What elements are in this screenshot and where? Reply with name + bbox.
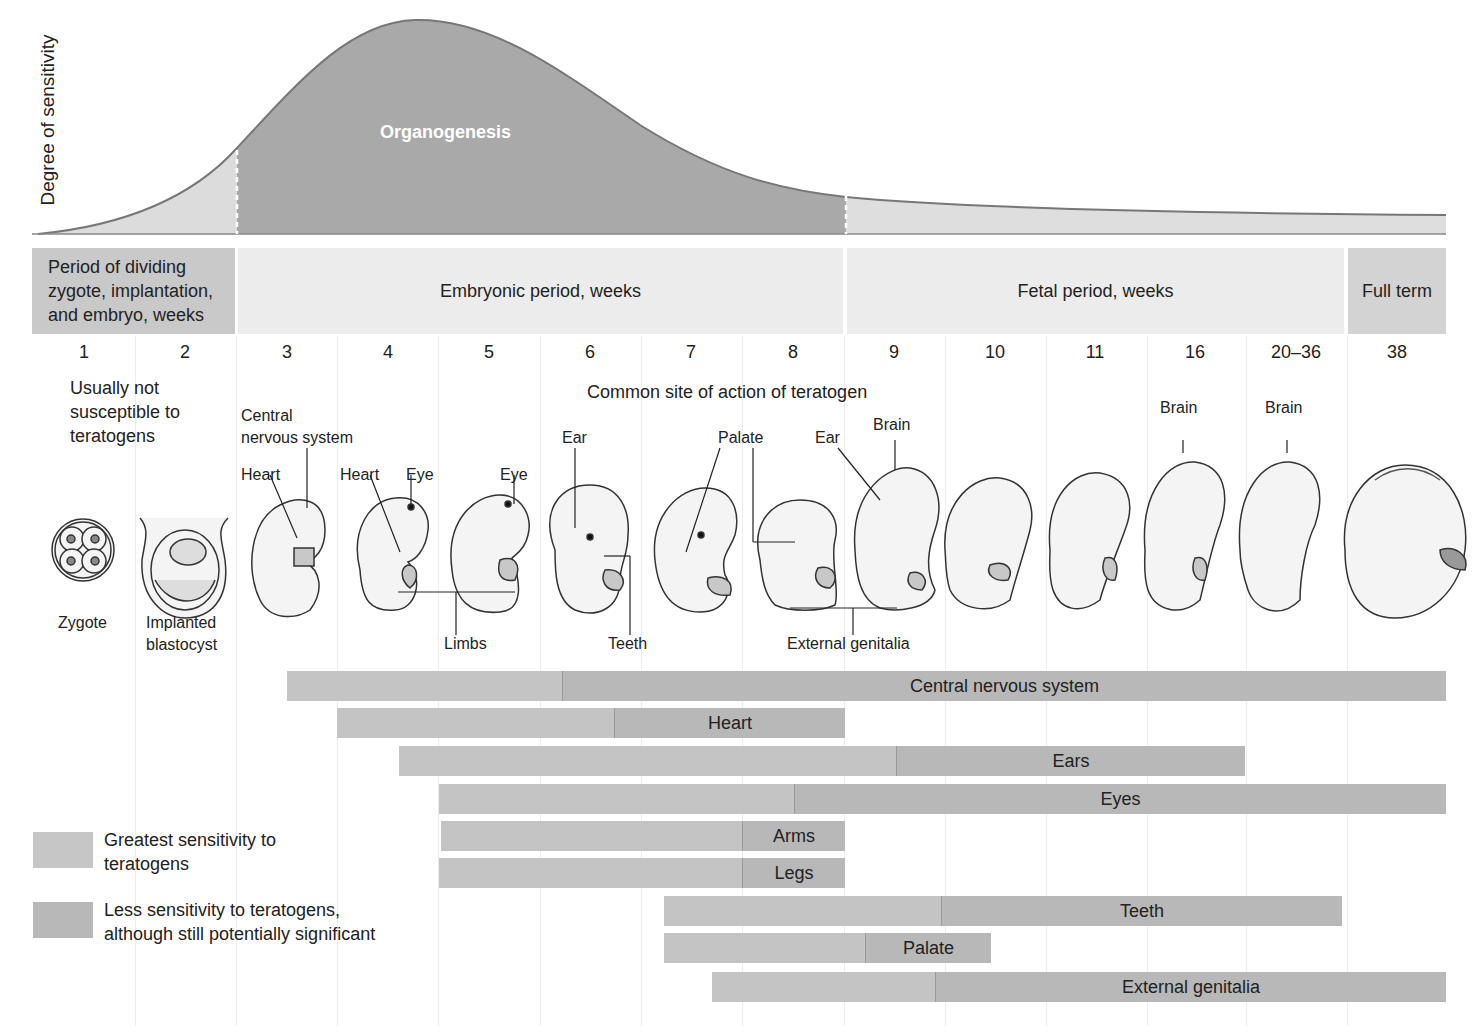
period-line: zygote, implantation, [48, 279, 213, 303]
embryo-week5-icon [451, 495, 529, 612]
legend-label-greatest: Greatest sensitivity to teratogens [104, 828, 276, 876]
blastocyst-line: Implanted [146, 612, 217, 634]
week-label: 38 [1367, 342, 1427, 363]
period-embryonic: Embryonic period, weeks [238, 248, 843, 334]
bar-legs: Legs [439, 858, 845, 888]
note-line: Usually not [70, 376, 180, 400]
zygote-label: Zygote [58, 612, 107, 634]
annotation-brain: Brain [1160, 397, 1197, 419]
week-label: 10 [965, 342, 1025, 363]
embryo-week11-icon [1049, 473, 1129, 609]
fetus-week20-36-icon [1239, 462, 1319, 611]
annotation-brain: Brain [873, 414, 910, 436]
annotation-brain: Brain [1265, 397, 1302, 419]
period-preembryonic: Period of dividing zygote, implantation,… [32, 248, 235, 334]
embryo-illustrations [0, 440, 1478, 640]
annotation-heart: Heart [241, 464, 280, 486]
bar-greatest-segment [287, 671, 562, 701]
annotation-ear: Ear [815, 427, 840, 449]
annotation-cns: Central [241, 405, 293, 427]
week-label: 1 [54, 342, 114, 363]
bar-greatest-segment [664, 896, 941, 926]
bar-greatest-segment [399, 746, 896, 776]
bar-less-segment: External genitalia [935, 972, 1446, 1002]
week-label: 9 [864, 342, 924, 363]
blastocyst-label: Implanted blastocyst [146, 612, 217, 656]
annotation-ear: Ear [562, 427, 587, 449]
legend-line: Less sensitivity to teratogens, [104, 898, 375, 922]
bar-greatest-segment [441, 821, 742, 851]
bar-less-segment: Palate [865, 933, 991, 963]
bar-palate: Palate [664, 933, 991, 963]
bar-central-nervous-system: Central nervous system [287, 671, 1446, 701]
annotation-teeth: Teeth [608, 633, 647, 655]
annotation-limbs: Limbs [444, 633, 487, 655]
bar-external-genitalia: External genitalia [712, 972, 1446, 1002]
annotation-heart: Heart [340, 464, 379, 486]
week-label: 5 [459, 342, 519, 363]
legend-swatch-less [33, 902, 93, 938]
bar-greatest-segment [439, 858, 742, 888]
period-line: and embryo, weeks [48, 303, 213, 327]
common-site-heading: Common site of action of teratogen [587, 380, 867, 404]
bar-less-segment: Eyes [794, 784, 1446, 814]
bar-greatest-segment [337, 708, 614, 738]
week-label: 16 [1165, 342, 1225, 363]
annotation-eye: Eye [406, 464, 434, 486]
bar-less-segment: Teeth [941, 896, 1342, 926]
embryo-week10-icon [945, 478, 1032, 609]
week-label: 20–36 [1266, 342, 1326, 363]
not-susceptible-note: Usually not susceptible to teratogens [70, 376, 180, 448]
legend-line: Greatest sensitivity to [104, 828, 276, 852]
legend-line: teratogens [104, 852, 276, 876]
week-label: 3 [257, 342, 317, 363]
week-label: 4 [358, 342, 418, 363]
bar-less-segment: Heart [614, 708, 845, 738]
note-line: susceptible to [70, 400, 180, 424]
legend-label-less: Less sensitivity to teratogens, although… [104, 898, 375, 946]
week-label: 8 [763, 342, 823, 363]
bar-greatest-segment [439, 784, 794, 814]
annotation-cns: nervous system [241, 427, 353, 449]
bar-heart: Heart [337, 708, 845, 738]
embryo-week9-icon [855, 468, 939, 610]
week-label: 6 [560, 342, 620, 363]
bar-greatest-segment [664, 933, 865, 963]
annotation-eye: Eye [500, 464, 528, 486]
week-label: 11 [1065, 342, 1125, 363]
legend-swatch-greatest [33, 832, 93, 868]
annotation-palate: Palate [718, 427, 763, 449]
period-fetal: Fetal period, weeks [847, 248, 1344, 334]
embryo-week8-icon [758, 500, 837, 610]
week-label: 7 [661, 342, 721, 363]
sensitivity-curve [0, 0, 1478, 240]
bar-greatest-segment [712, 972, 935, 1002]
bar-less-segment: Ears [896, 746, 1245, 776]
week-label: 2 [155, 342, 215, 363]
blastocyst-icon [140, 518, 228, 618]
legend-line: although still potentially significant [104, 922, 375, 946]
embryo-week4-icon [357, 498, 428, 611]
bar-teeth: Teeth [664, 896, 1342, 926]
bar-less-segment: Central nervous system [562, 671, 1446, 701]
annotation-external-genitalia: External genitalia [787, 633, 910, 655]
zygote-icon [52, 519, 114, 581]
period-full-term: Full term [1348, 248, 1446, 334]
organogenesis-label: Organogenesis [380, 122, 511, 143]
bar-less-segment: Arms [742, 821, 845, 851]
blastocyst-line: blastocyst [146, 634, 217, 656]
period-line: Period of dividing [48, 255, 213, 279]
fetus-week16-icon [1144, 462, 1224, 610]
bar-ears: Ears [399, 746, 1245, 776]
bar-eyes: Eyes [439, 784, 1446, 814]
fetus-week38-icon [1344, 465, 1465, 618]
bar-less-segment: Legs [742, 858, 845, 888]
embryo-week6-icon [550, 485, 628, 613]
bar-arms: Arms [441, 821, 845, 851]
